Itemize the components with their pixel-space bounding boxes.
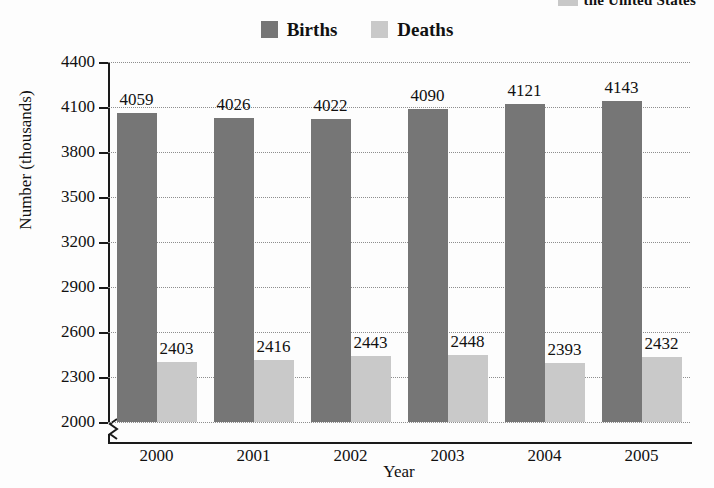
x-axis-line: [108, 442, 692, 444]
bar-value-label: 4026: [217, 95, 251, 115]
legend-label-births: Births: [287, 20, 338, 39]
y-axis-tick-label: 4100: [61, 97, 95, 117]
bar-value-label: 2403: [160, 339, 194, 359]
bar-group: 40902448: [408, 62, 488, 422]
bar-group: 41432432: [602, 62, 682, 422]
x-axis-title: Year: [108, 462, 690, 482]
bar-deaths-2001[interactable]: 2416: [254, 360, 294, 422]
bar-births-2005[interactable]: 4143: [602, 101, 642, 422]
bar-value-label: 2432: [645, 334, 679, 354]
gridline: [108, 422, 690, 423]
y-axis-tick-label: 3500: [61, 187, 95, 207]
bar-births-2001[interactable]: 4026: [214, 118, 254, 422]
y-axis-tick: [99, 62, 108, 64]
plot-area: 200023002600290032003500380041004400 405…: [108, 62, 690, 422]
bar-value-label: 4143: [605, 78, 639, 98]
y-axis-tick-label: 2000: [61, 412, 95, 432]
bar-value-label: 4121: [508, 81, 542, 101]
y-axis-tick: [99, 197, 108, 199]
legend-swatch-deaths-icon: [371, 21, 388, 38]
legend-item-births: Births: [261, 20, 338, 39]
title-swatch: [558, 0, 578, 6]
bar-deaths-2003[interactable]: 2448: [448, 355, 488, 422]
bar-deaths-2005[interactable]: 2432: [642, 357, 682, 422]
bar-births-2003[interactable]: 4090: [408, 109, 448, 423]
chart-title-fragment: the United States: [0, 0, 714, 8]
bar-chart: Number (thousands) 200023002600290032003…: [0, 50, 714, 488]
y-axis-tick-label: 3200: [61, 232, 95, 252]
bar-value-label: 2416: [257, 337, 291, 357]
legend-swatch-births-icon: [261, 21, 278, 38]
bar-value-label: 2443: [354, 333, 388, 353]
bar-deaths-2002[interactable]: 2443: [351, 356, 391, 422]
y-axis-title: Number (thousands): [16, 40, 36, 280]
bar-value-label: 4090: [411, 86, 445, 106]
bar-value-label: 4022: [314, 96, 348, 116]
bar-group: 40592403: [117, 62, 197, 422]
bar-births-2000[interactable]: 4059: [117, 113, 157, 422]
y-axis-tick: [99, 242, 108, 244]
bar-group: 41212393: [505, 62, 585, 422]
y-axis-tick: [99, 332, 108, 334]
bar-deaths-2004[interactable]: 2393: [545, 363, 585, 422]
y-axis-tick-label: 2900: [61, 277, 95, 297]
y-axis-tick-label: 2300: [61, 367, 95, 387]
bar-births-2002[interactable]: 4022: [311, 119, 351, 422]
y-axis-tick: [99, 107, 108, 109]
bar-value-label: 2448: [451, 332, 485, 352]
bar-births-2004[interactable]: 4121: [505, 104, 545, 422]
chart-legend: Births Deaths: [0, 20, 714, 39]
bar-group: 40222443: [311, 62, 391, 422]
bar-value-label: 4059: [120, 90, 154, 110]
legend-item-deaths: Deaths: [371, 20, 453, 39]
y-axis-tick-label: 2600: [61, 322, 95, 342]
y-axis-tick-label: 4400: [61, 52, 95, 72]
y-axis-tick: [99, 287, 108, 289]
chart-title-text: the United States: [583, 0, 696, 8]
y-axis-tick: [99, 152, 108, 154]
bar-group: 40262416: [214, 62, 294, 422]
legend-label-deaths: Deaths: [397, 20, 453, 39]
bar-value-label: 2393: [548, 340, 582, 360]
bar-deaths-2000[interactable]: 2403: [157, 362, 197, 422]
y-axis-tick-label: 3800: [61, 142, 95, 162]
y-axis-tick: [99, 377, 108, 379]
y-axis-tick: [99, 422, 108, 424]
